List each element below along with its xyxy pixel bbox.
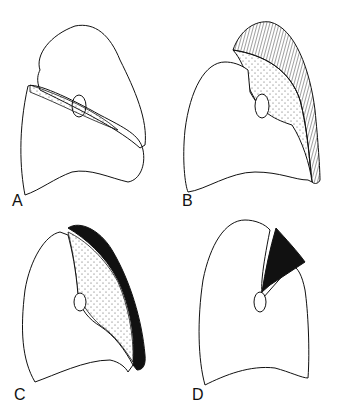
- panel-label-d: D: [192, 386, 204, 404]
- lung-diagram-b: [170, 0, 340, 210]
- panel-d: D: [170, 210, 340, 419]
- panel-label-a: A: [12, 192, 23, 210]
- panel-c: C: [0, 210, 170, 419]
- panel-label-b: B: [182, 192, 193, 210]
- panel-label-c: C: [14, 386, 26, 404]
- panel-a: A: [0, 0, 170, 210]
- lung-diagram-a: [0, 0, 170, 210]
- panel-b: B: [170, 0, 340, 210]
